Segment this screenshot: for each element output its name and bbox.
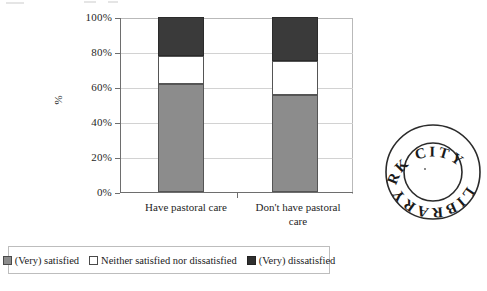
bar-segment-dissatisfied[interactable] — [272, 17, 318, 61]
x-tick-mark — [237, 193, 238, 198]
legend-swatch-satisfied-icon — [3, 256, 12, 265]
chart-legend: (Very) satisfied Neither satisfied nor d… — [8, 246, 330, 274]
y-tick-label-0: 0% — [72, 187, 112, 198]
bar-segment-satisfied[interactable] — [272, 95, 318, 192]
legend-label-satisfied: (Very) satisfied — [15, 255, 79, 266]
bar-segment-neutral[interactable] — [158, 56, 204, 84]
scan-artifact — [108, 1, 118, 3]
x-axis-label-dont-have-pastoral-care: Don't have pastoral care — [240, 200, 356, 228]
y-tick-label-60: 60% — [72, 82, 112, 93]
y-tick-label-40: 40% — [72, 117, 112, 128]
x-label-line-2: care — [240, 214, 356, 228]
scan-artifact — [84, 1, 96, 3]
y-tick-label-80: 80% — [72, 47, 112, 58]
y-tick-label-20: 20% — [72, 152, 112, 163]
x-label-line-1: Don't have pastoral — [240, 200, 356, 214]
legend-swatch-neutral-icon — [89, 256, 98, 265]
chart-page: % 100% 80% 60% 40% 20% 0% Have pastoral … — [0, 0, 487, 291]
bar-segment-dissatisfied[interactable] — [158, 17, 204, 56]
plot-area — [120, 18, 353, 193]
legend-item-dissatisfied[interactable]: (Very) dissatisfied — [247, 255, 336, 266]
legend-item-satisfied[interactable]: (Very) satisfied — [3, 255, 79, 266]
bar-dont-have-pastoral-care[interactable] — [272, 17, 318, 192]
y-tick-mark — [115, 193, 120, 194]
y-axis-title: % — [52, 88, 64, 112]
scan-artifact — [6, 2, 24, 4]
y-tick-label-100: 100% — [72, 12, 112, 23]
bar-segment-satisfied[interactable] — [158, 84, 204, 193]
cork-city-library-stamp-icon: CORK CITY LIBRARY — [383, 121, 483, 223]
legend-label-dissatisfied: (Very) dissatisfied — [259, 255, 336, 266]
legend-swatch-dissatisfied-icon — [247, 256, 256, 265]
x-label-line-1: Have pastoral care — [126, 200, 246, 214]
x-axis-label-have-pastoral-care: Have pastoral care — [126, 200, 246, 214]
legend-label-neutral: Neither satisfied nor dissatisfied — [101, 255, 237, 266]
bar-segment-neutral[interactable] — [272, 61, 318, 95]
stamp-bottom-text: LIBRARY — [388, 185, 479, 222]
bar-have-pastoral-care[interactable] — [158, 17, 204, 192]
legend-item-neutral[interactable]: Neither satisfied nor dissatisfied — [89, 255, 237, 266]
